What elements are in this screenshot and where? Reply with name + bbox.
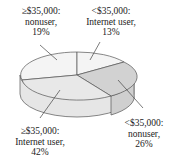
label-high-nonuser: ≥$35,000: nonuser, 19% — [12, 6, 70, 38]
label-line: nonuser, — [12, 17, 70, 28]
label-line: Internet user, — [76, 17, 146, 28]
label-value: 26% — [115, 139, 173, 150]
label-line: ≥$35,000: — [4, 126, 76, 137]
label-line: <$35,000: — [76, 6, 146, 17]
label-value: 19% — [12, 27, 70, 38]
label-line: ≥$35,000: — [12, 6, 70, 17]
label-high-internet: ≥$35,000: Internet user, 42% — [4, 126, 76, 158]
label-line: <$35,000: — [115, 118, 173, 129]
label-line: Internet user, — [4, 137, 76, 148]
label-value: 13% — [76, 27, 146, 38]
label-low-nonuser: <$35,000: nonuser, 26% — [115, 118, 173, 150]
label-low-internet: <$35,000: Internet user, 13% — [76, 6, 146, 38]
label-value: 42% — [4, 147, 76, 158]
label-line: nonuser, — [115, 129, 173, 140]
